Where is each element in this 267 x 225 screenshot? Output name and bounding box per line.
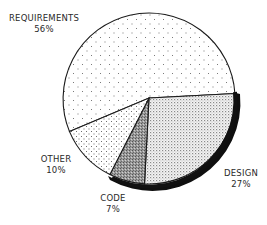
label-code-name: CODE xyxy=(97,193,129,204)
label-requirements-name: REQUIREMENTS xyxy=(8,13,80,24)
label-other-name: OTHER xyxy=(36,154,76,165)
label-design: DESIGN 27% xyxy=(219,168,263,190)
label-code: CODE 7% xyxy=(97,193,129,215)
label-code-pct: 7% xyxy=(97,204,129,215)
label-design-pct: 27% xyxy=(219,179,263,190)
label-other: OTHER 10% xyxy=(36,154,76,176)
label-requirements: REQUIREMENTS 56% xyxy=(8,13,80,35)
label-design-name: DESIGN xyxy=(219,168,263,179)
label-other-pct: 10% xyxy=(36,165,76,176)
label-requirements-pct: 56% xyxy=(8,24,80,35)
